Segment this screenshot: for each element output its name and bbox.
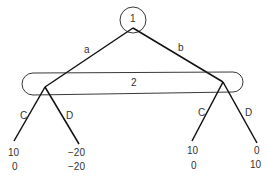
payoff-aC-p2: 0 xyxy=(12,161,18,172)
action-b-label: b xyxy=(178,42,184,53)
edge-b xyxy=(133,28,223,82)
action-a-label: a xyxy=(84,44,90,55)
action-right-D-label: D xyxy=(245,107,252,118)
edge-left-D xyxy=(45,87,79,144)
payoff-bC-p1: 10 xyxy=(187,145,199,156)
payoff-aC-p1: 10 xyxy=(8,147,20,158)
edge-left-C xyxy=(14,87,45,141)
player2-label: 2 xyxy=(131,77,137,88)
payoff-bC-p2: 0 xyxy=(191,160,197,171)
player1-label: 1 xyxy=(130,13,136,24)
action-right-C-label: C xyxy=(198,107,205,118)
payoff-aD-p2: −20 xyxy=(68,161,85,172)
action-left-D-label: D xyxy=(66,110,73,121)
edge-a xyxy=(45,28,133,87)
game-tree: 1 a b 2 C D C D 10 0 −20 −20 10 0 0 10 xyxy=(0,0,268,181)
payoff-bD-p1: 0 xyxy=(254,145,260,156)
edge-right-C xyxy=(192,82,223,141)
payoff-aD-p1: −20 xyxy=(68,147,85,158)
action-left-C-label: C xyxy=(20,110,27,121)
payoff-bD-p2: 10 xyxy=(250,159,262,170)
